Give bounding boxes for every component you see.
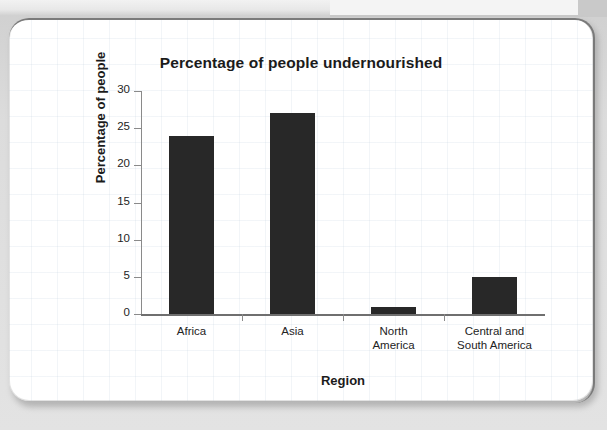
bar: [371, 307, 416, 314]
y-axis-tick: 5: [134, 277, 141, 278]
x-axis-category-label: NorthAmerica: [339, 325, 449, 352]
y-axis-tick: 0: [134, 314, 141, 315]
bar: [169, 136, 214, 314]
y-axis-tick-label: 10: [117, 232, 130, 244]
y-axis-tick: 20: [134, 165, 141, 166]
x-axis-category-label: Africa: [137, 325, 247, 339]
y-axis-tick-label: 25: [117, 120, 130, 132]
y-axis-tick-label: 20: [117, 157, 130, 169]
y-axis-tick: 30: [134, 91, 141, 92]
x-axis-title: Region: [141, 373, 545, 388]
bar: [472, 277, 517, 314]
x-axis-category-label: Central andSouth America: [440, 325, 550, 352]
y-axis-tick-label: 30: [117, 83, 130, 95]
x-axis-category-label: Asia: [238, 325, 348, 339]
plot-area: 051015202530 AfricaAsiaNorthAmericaCentr…: [141, 91, 545, 314]
x-axis-category-separator: [343, 314, 344, 321]
y-axis-tick-label: 5: [124, 269, 130, 281]
x-axis-category-separator: [242, 314, 243, 321]
y-axis-tick: 10: [134, 240, 141, 241]
y-axis-tick-label: 0: [124, 306, 130, 318]
y-axis-line: [141, 91, 142, 315]
y-axis-tick: 15: [134, 203, 141, 204]
y-axis-tick-label: 15: [117, 195, 130, 207]
page-edge-notch: [330, 0, 607, 17]
scanned-page: Percentage of people undernourished Perc…: [0, 0, 607, 430]
x-axis-category-separator: [444, 314, 445, 321]
bar: [270, 113, 315, 314]
y-axis-tick: 25: [134, 128, 141, 129]
y-axis-title: Percentage of people: [93, 18, 108, 218]
bar-chart-figure: Percentage of people undernourished Perc…: [9, 18, 593, 401]
